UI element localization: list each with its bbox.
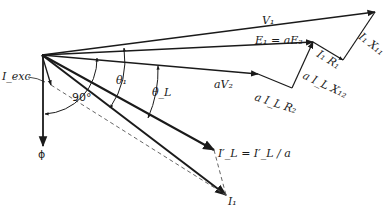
- i1r1-label: I₁ R₁: [314, 47, 343, 72]
- ailr2-phasor: [258, 74, 292, 88]
- ninety-label: 90°: [72, 91, 92, 104]
- av2-phasor: [42, 55, 258, 74]
- v1-label: V₁: [262, 14, 274, 27]
- phasor-diagram: V₁ E₁ = aE₂ aV₂ a I_L R₂ a I_L X₁₂ I₁ R₁…: [0, 0, 386, 213]
- phi-label: ϕ: [38, 148, 45, 161]
- i1-label: I₁: [227, 195, 237, 208]
- il-prime-label: I′_L = I′_L / a: [217, 147, 291, 160]
- ailx2-label: a I_L X₁₂: [301, 69, 349, 101]
- iexc-label: I_exc: [1, 70, 31, 83]
- theta1-label: θ₁: [116, 74, 127, 87]
- ailr2-label: a I_L R₂: [253, 90, 298, 116]
- il-prime-phasor: [42, 55, 214, 150]
- thetaL-label: θ_L: [152, 86, 171, 99]
- av2-label: aV₂: [214, 78, 233, 91]
- i1-phasor: [42, 55, 226, 195]
- e1-label: E₁ = aE₂: [254, 34, 303, 47]
